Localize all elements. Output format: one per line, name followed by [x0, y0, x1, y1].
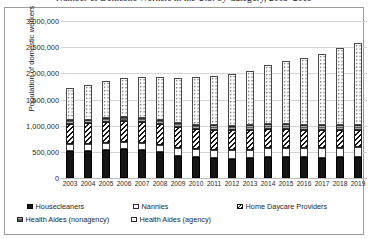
bar-segment	[354, 147, 362, 157]
bar-column[interactable]	[156, 77, 164, 178]
bar-column[interactable]	[246, 71, 254, 179]
bar-segment	[120, 149, 128, 178]
bar-segment	[264, 157, 272, 178]
bar-segment	[174, 127, 182, 147]
x-axis-tick-label: 2013	[241, 180, 259, 187]
x-axis-tick-label: 2010	[187, 180, 205, 187]
bar-column[interactable]	[66, 88, 74, 178]
bar-segment	[192, 129, 200, 149]
bar-segment	[228, 159, 236, 178]
bar-segment	[210, 76, 218, 125]
bar-column[interactable]	[264, 65, 272, 178]
legend-item[interactable]: Health Aides (agency)	[131, 215, 211, 224]
gridline	[61, 178, 367, 179]
bar-segment	[138, 122, 146, 143]
bar-segment	[264, 65, 272, 124]
bar-segment	[102, 122, 110, 143]
y-axis-tick-label: 2,000,000	[5, 69, 59, 78]
legend-item[interactable]: Housecleaners	[27, 202, 84, 211]
bar-segment	[174, 156, 182, 179]
x-axis-tick-labels: 2003200420052006200720082009201020112012…	[61, 180, 367, 192]
bar-segment	[120, 121, 128, 142]
bar-segment	[300, 130, 308, 148]
bar-segment	[192, 157, 200, 178]
bar-segment	[246, 130, 254, 149]
bar-segment	[282, 61, 290, 124]
y-axis-tick-label: 0	[5, 174, 59, 183]
bar-column[interactable]	[318, 54, 326, 178]
bar-segment	[84, 123, 92, 144]
x-axis-tick-label: 2009	[169, 180, 187, 187]
bar-segment	[210, 158, 218, 178]
legend-label: Home Daycare Providers	[246, 202, 328, 211]
x-axis-tick-label: 2004	[79, 180, 97, 187]
legend-swatch-icon	[133, 204, 139, 210]
bar-segment	[228, 150, 236, 159]
bar-segment	[102, 143, 110, 150]
bar-segment	[282, 129, 290, 148]
bar-segment	[318, 148, 326, 157]
bar-segment	[102, 81, 110, 118]
bar-segment	[354, 43, 362, 125]
bar-segment	[300, 148, 308, 157]
bar-segment	[318, 54, 326, 125]
legend-label: Nannies	[142, 202, 169, 211]
bar-column[interactable]	[300, 58, 308, 178]
x-axis-tick-label: 2005	[97, 180, 115, 187]
legend-item[interactable]: Health Aides (nonagency)	[17, 215, 109, 224]
bar-segment	[192, 149, 200, 157]
bar-column[interactable]	[102, 81, 110, 178]
bar-column[interactable]	[228, 74, 236, 178]
x-axis-tick-label: 2012	[223, 180, 241, 187]
bar-column[interactable]	[282, 61, 290, 178]
bar-segment	[336, 48, 344, 125]
bar-column[interactable]	[138, 77, 146, 178]
y-axis-tick-labels: 3,000,0002,500,0002,000,0001,500,0001,00…	[5, 21, 59, 178]
x-axis-tick-label: 2003	[61, 180, 79, 187]
bar-column[interactable]	[354, 43, 362, 178]
legend-item[interactable]: Home Daycare Providers	[237, 202, 327, 211]
bar-segment	[120, 142, 128, 149]
bar-segment	[138, 143, 146, 150]
legend-swatch-icon	[17, 217, 23, 223]
bar-segment	[174, 148, 182, 156]
legend-label: Health Aides (nonagency)	[26, 215, 110, 224]
bar-segment	[354, 130, 362, 148]
bar-column[interactable]	[192, 77, 200, 178]
bar-segment	[246, 158, 254, 178]
bar-series-group	[61, 21, 367, 178]
bar-segment	[246, 71, 254, 126]
y-axis-tick-label: 2,500,000	[5, 43, 59, 52]
plot-area	[61, 21, 367, 178]
bar-segment	[174, 78, 182, 123]
bar-segment	[354, 157, 362, 178]
bar-segment	[84, 85, 92, 120]
legend-item[interactable]: Nannies	[133, 202, 168, 211]
bar-segment	[228, 130, 236, 150]
bar-column[interactable]	[336, 48, 344, 178]
bar-segment	[318, 158, 326, 178]
bar-segment	[264, 129, 272, 148]
bar-segment	[336, 130, 344, 148]
bar-segment	[282, 148, 290, 157]
bar-segment	[66, 151, 74, 178]
y-axis-tick-label: 500,000	[5, 147, 59, 156]
x-axis-tick-label: 2006	[115, 180, 133, 187]
chart-frame: Population of domestic workers 3,000,000…	[4, 7, 364, 235]
x-axis-tick-label: 2016	[295, 180, 313, 187]
x-axis-tick-label: 2018	[331, 180, 349, 187]
x-axis-tick-label: 2008	[151, 180, 169, 187]
bar-segment	[282, 157, 290, 178]
x-axis-tick-label: 2014	[259, 180, 277, 187]
bar-segment	[210, 150, 218, 158]
chart-title: Number of Domestic Workers in the U.S. b…	[0, 0, 368, 3]
bar-segment	[66, 124, 74, 144]
bar-column[interactable]	[174, 78, 182, 178]
bar-segment	[300, 157, 308, 178]
bar-segment	[336, 157, 344, 178]
legend-swatch-icon	[27, 204, 33, 210]
legend-swatch-icon	[237, 204, 243, 210]
bar-column[interactable]	[84, 85, 92, 178]
bar-column[interactable]	[120, 78, 128, 178]
bar-column[interactable]	[210, 76, 218, 178]
